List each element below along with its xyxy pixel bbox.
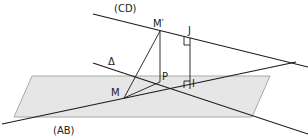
label-m: M (111, 87, 120, 98)
geometry-diagram: (CD) (AB) Δ M M′ J P I (0, 0, 308, 140)
label-cd: (CD) (114, 3, 137, 14)
label-i: I (192, 78, 195, 89)
label-mprime: M′ (153, 18, 165, 29)
label-p: P (162, 71, 168, 82)
plane (14, 76, 270, 117)
line-cd (93, 14, 308, 67)
label-ab: (AB) (53, 125, 75, 136)
label-delta: Δ (108, 56, 115, 67)
label-j: J (187, 25, 191, 36)
